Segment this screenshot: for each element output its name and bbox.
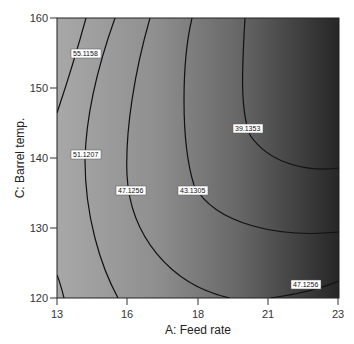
x-tick-16: 16 [121,308,133,320]
y-tick-140: 140 [30,152,48,164]
contour-plot: 55.1158 51.1207 47.1256 43.1305 39.1353 … [0,0,354,344]
y-tick-130: 130 [30,222,48,234]
y-axis [50,18,57,298]
x-tick-23: 23 [332,308,344,320]
x-axis [57,298,338,305]
contour-label-39: 39.1353 [235,125,260,132]
y-axis-title: C: Barrel temp. [13,118,27,199]
contour-label-51: 51.1207 [73,151,98,158]
y-tick-150: 150 [30,82,48,94]
x-axis-title: A: Feed rate [165,323,231,337]
x-tick-18: 18 [192,308,204,320]
x-tick-21: 21 [262,308,274,320]
contour-label-43: 43.1305 [180,187,205,194]
contour-label-47-right: 47.1256 [293,281,318,288]
y-tick-120: 120 [30,292,48,304]
y-tick-160: 160 [30,12,48,24]
contour-label-55: 55.1158 [73,50,98,57]
contour-label-47: 47.1256 [118,187,143,194]
x-tick-13: 13 [51,308,63,320]
